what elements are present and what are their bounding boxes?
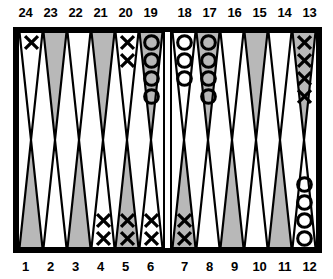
checker-x[interactable] [175, 211, 194, 230]
checker-x[interactable] [94, 211, 113, 230]
point-8[interactable] [196, 140, 220, 248]
checker-stack-point-19[interactable] [139, 33, 163, 105]
point-label-18: 18 [172, 2, 197, 24]
checker-o[interactable] [142, 69, 161, 88]
point-13[interactable] [292, 32, 316, 140]
point-7[interactable] [172, 140, 196, 248]
point-5[interactable] [115, 140, 139, 248]
checker-stack-point-12[interactable] [292, 175, 316, 247]
checker-x[interactable] [295, 51, 314, 70]
checker-o[interactable] [142, 33, 161, 52]
point-16[interactable] [220, 32, 244, 140]
board-left-half [19, 32, 163, 248]
point-label-6: 6 [138, 256, 163, 278]
point-label-11: 11 [272, 256, 297, 278]
point-21[interactable] [91, 32, 115, 140]
checker-o[interactable] [199, 33, 218, 52]
board-right-half [172, 32, 316, 248]
checker-x[interactable] [22, 33, 41, 52]
point-label-3: 3 [63, 256, 88, 278]
point-label-21: 21 [88, 2, 113, 24]
point-14[interactable] [268, 32, 292, 140]
point-10[interactable] [244, 140, 268, 248]
quadrant-top-right [172, 32, 316, 140]
point-18[interactable] [172, 32, 196, 140]
point-2[interactable] [43, 140, 67, 248]
point-label-5: 5 [113, 256, 138, 278]
point-17[interactable] [196, 32, 220, 140]
checker-o[interactable] [175, 69, 194, 88]
point-4[interactable] [91, 140, 115, 248]
point-20[interactable] [115, 32, 139, 140]
point-label-22: 22 [63, 2, 88, 24]
bottom-point-labels: 123456 789101112 [13, 256, 322, 278]
point-label-16: 16 [222, 2, 247, 24]
checker-x[interactable] [295, 33, 314, 52]
point-22[interactable] [67, 32, 91, 140]
checker-x[interactable] [118, 51, 137, 70]
point-6[interactable] [139, 140, 163, 248]
checker-o[interactable] [295, 175, 314, 194]
point-label-13: 13 [297, 2, 322, 24]
checker-stack-point-24[interactable] [19, 33, 43, 51]
point-label-4: 4 [88, 256, 113, 278]
checker-o[interactable] [142, 87, 161, 106]
point-1[interactable] [19, 140, 43, 248]
checker-o[interactable] [295, 229, 314, 248]
checker-x[interactable] [295, 69, 314, 88]
checker-x[interactable] [175, 229, 194, 248]
checker-o[interactable] [175, 51, 194, 70]
point-label-7: 7 [172, 256, 197, 278]
checker-stack-point-6[interactable] [139, 211, 163, 247]
point-label-12: 12 [297, 256, 322, 278]
checker-o[interactable] [199, 51, 218, 70]
checker-x[interactable] [295, 87, 314, 106]
checker-stack-point-20[interactable] [115, 33, 139, 69]
checker-o[interactable] [199, 69, 218, 88]
checker-stack-point-17[interactable] [196, 33, 220, 105]
checker-o[interactable] [295, 193, 314, 212]
checker-x[interactable] [94, 229, 113, 248]
checker-x[interactable] [142, 229, 161, 248]
point-label-2: 2 [38, 256, 63, 278]
checker-stack-point-7[interactable] [172, 211, 196, 247]
checker-x[interactable] [118, 33, 137, 52]
point-label-20: 20 [113, 2, 138, 24]
checker-x[interactable] [118, 211, 137, 230]
point-label-24: 24 [13, 2, 38, 24]
checker-o[interactable] [142, 51, 161, 70]
point-24[interactable] [19, 32, 43, 140]
quadrant-bottom-left [19, 140, 163, 248]
point-label-8: 8 [197, 256, 222, 278]
point-15[interactable] [244, 32, 268, 140]
point-23[interactable] [43, 32, 67, 140]
quadrant-bottom-right [172, 140, 316, 248]
bottom-label-gap [163, 256, 172, 278]
point-label-1: 1 [13, 256, 38, 278]
point-9[interactable] [220, 140, 244, 248]
point-12[interactable] [292, 140, 316, 248]
checker-stack-point-13[interactable] [292, 33, 316, 105]
checker-x[interactable] [142, 211, 161, 230]
point-label-19: 19 [138, 2, 163, 24]
top-label-gap [163, 2, 172, 24]
point-label-15: 15 [247, 2, 272, 24]
checker-o[interactable] [199, 87, 218, 106]
point-label-14: 14 [272, 2, 297, 24]
bottom-point-labels-right: 789101112 [172, 256, 322, 278]
checker-stack-point-18[interactable] [172, 33, 196, 87]
bottom-point-labels-left: 123456 [13, 256, 163, 278]
point-19[interactable] [139, 32, 163, 140]
point-11[interactable] [268, 140, 292, 248]
point-3[interactable] [67, 140, 91, 248]
checker-o[interactable] [175, 33, 194, 52]
quadrant-top-left [19, 32, 163, 140]
checker-stack-point-4[interactable] [91, 211, 115, 247]
point-label-23: 23 [38, 2, 63, 24]
checker-stack-point-5[interactable] [115, 211, 139, 247]
checker-x[interactable] [118, 229, 137, 248]
point-label-9: 9 [222, 256, 247, 278]
board-playing-surface [19, 32, 316, 248]
checker-o[interactable] [295, 211, 314, 230]
center-bar[interactable] [163, 32, 172, 248]
